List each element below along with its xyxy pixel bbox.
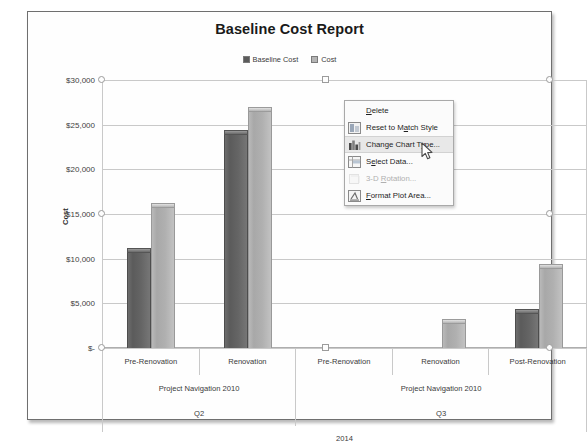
- bar-cost[interactable]: [248, 107, 272, 348]
- context-menu[interactable]: DeleteReset to Match StyleChange Chart T…: [344, 100, 454, 206]
- selection-handle-top-right[interactable]: [546, 76, 553, 83]
- bar-top-face: [224, 130, 248, 135]
- rotation-3d-icon: [347, 172, 362, 186]
- context-menu-item-label: Change Chart Type...: [366, 140, 440, 149]
- bar-cost[interactable]: [151, 203, 175, 348]
- bar-body: [248, 111, 272, 348]
- x-axis-category-label: Post-Renovation: [489, 348, 586, 375]
- legend-swatch-cost: [311, 56, 318, 63]
- context-menu-item-label: Delete: [366, 106, 389, 115]
- bar-top-face: [515, 309, 539, 314]
- chart-type-icon: [347, 138, 362, 152]
- bar-body: [515, 313, 539, 348]
- y-axis-tick-label: $5,000: [71, 299, 95, 308]
- bar-body: [224, 134, 248, 348]
- bar-cost[interactable]: [442, 319, 466, 348]
- bar-top-face: [539, 264, 563, 269]
- context-menu-item-3-d-rotation: 3-D Rotation...: [345, 170, 453, 187]
- x-axis-project-label: Project Navigation 2010: [296, 375, 586, 401]
- legend-label-cost: Cost: [321, 55, 336, 64]
- selection-handle-top-center[interactable]: [322, 76, 329, 83]
- bar-body: [442, 323, 466, 348]
- chart-legend[interactable]: Baseline Cost Cost: [28, 55, 551, 64]
- y-axis-tick-label: $-: [88, 344, 95, 353]
- y-axis-tick-label: $15,000: [66, 210, 95, 219]
- x-axis-category-label: Renovation: [200, 348, 297, 375]
- format-area-icon: [347, 189, 362, 203]
- bar-pair: [102, 80, 199, 348]
- legend-entry-cost[interactable]: Cost: [311, 55, 336, 64]
- x-axis-level-project[interactable]: Project Navigation 2010Project Navigatio…: [103, 375, 586, 401]
- selection-handle-bottom-left[interactable]: [98, 344, 105, 351]
- context-menu-item-change-chart-type[interactable]: Change Chart Type...: [345, 136, 453, 153]
- bar-baseline-cost[interactable]: [224, 130, 248, 348]
- select-data-icon: [347, 155, 362, 169]
- menu-icon-placeholder: [347, 104, 362, 118]
- context-menu-item-reset-to-match-style[interactable]: Reset to Match Style: [345, 119, 453, 136]
- chart-title[interactable]: Baseline Cost Report: [28, 21, 551, 37]
- bar-pair: [490, 80, 587, 348]
- bar-top-face: [151, 203, 175, 208]
- selection-handle-top-left[interactable]: [98, 76, 105, 83]
- bar-baseline-cost[interactable]: [515, 309, 539, 348]
- bar-pair: [199, 80, 296, 348]
- selection-handle-bottom-right[interactable]: [546, 344, 553, 351]
- context-menu-item-label: 3-D Rotation...: [366, 174, 416, 183]
- context-menu-item-label: Reset to Match Style: [366, 123, 438, 132]
- bar-body: [127, 252, 151, 348]
- y-axis-tick-label: $25,000: [66, 120, 95, 129]
- bar-top-face: [248, 107, 272, 112]
- x-axis-category-label: Pre-Renovation: [296, 348, 393, 375]
- context-menu-item-delete[interactable]: Delete: [345, 102, 453, 119]
- x-axis-level-categories[interactable]: Pre-RenovationRenovationPre-RenovationRe…: [103, 348, 586, 375]
- bar-category-slot: [490, 80, 587, 348]
- y-axis-tick-label: $20,000: [66, 165, 95, 174]
- context-menu-item-select-data[interactable]: Select Data...: [345, 153, 453, 170]
- x-axis-project-label: Project Navigation 2010: [103, 375, 296, 401]
- y-axis-tick-label: $10,000: [66, 254, 95, 263]
- context-menu-item-label: Format Plot Area...: [366, 191, 431, 200]
- legend-label-baseline-cost: Baseline Cost: [253, 55, 299, 64]
- reset-style-icon: [347, 121, 362, 135]
- bar-category-slot: [102, 80, 199, 348]
- y-axis-tick-label: $30,000: [66, 76, 95, 85]
- selection-handle-bottom-center[interactable]: [322, 344, 329, 351]
- chart-frame[interactable]: Baseline Cost Report Baseline Cost Cost …: [27, 11, 552, 420]
- bar-baseline-cost[interactable]: [127, 248, 151, 348]
- x-axis-category-label: Pre-Renovation: [103, 348, 200, 375]
- legend-entry-baseline-cost[interactable]: Baseline Cost: [243, 55, 299, 64]
- bar-cost[interactable]: [539, 264, 563, 348]
- context-menu-item-label: Select Data...: [366, 157, 413, 166]
- selection-handle-middle-right[interactable]: [546, 210, 553, 217]
- selection-handle-middle-left[interactable]: [98, 210, 105, 217]
- x-axis-category-label: Renovation: [393, 348, 490, 375]
- bar-top-face: [442, 319, 466, 324]
- x-axis-quarter-label: Q3: [296, 401, 586, 426]
- x-axis-level-year[interactable]: 2014: [103, 426, 586, 442]
- legend-swatch-baseline-cost: [243, 56, 250, 63]
- x-axis-year-label: 2014: [103, 426, 586, 442]
- bar-body: [151, 207, 175, 348]
- context-menu-item-format-plot-area[interactable]: Format Plot Area...: [345, 187, 453, 204]
- x-axis-quarter-label: Q2: [103, 401, 296, 426]
- bar-category-slot: [199, 80, 296, 348]
- bar-top-face: [127, 248, 151, 253]
- bar-body: [539, 268, 563, 348]
- x-axis-labels[interactable]: Pre-RenovationRenovationPre-RenovationRe…: [102, 348, 587, 432]
- x-axis-level-quarter[interactable]: Q2Q3: [103, 401, 586, 426]
